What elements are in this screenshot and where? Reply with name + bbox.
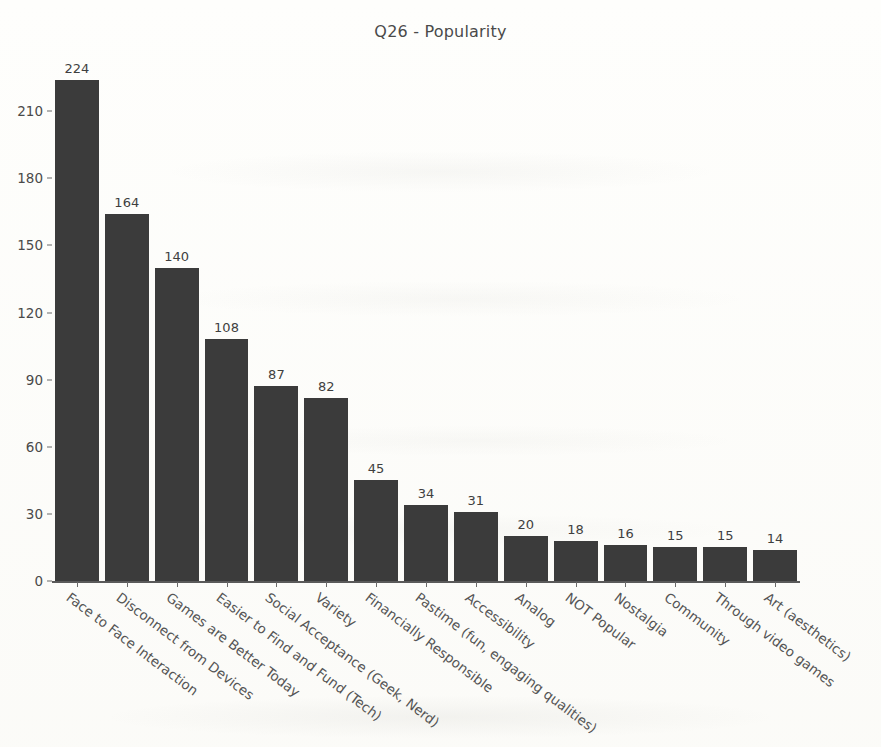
bar-value-label: 18 bbox=[567, 522, 584, 537]
bar-value-label: 16 bbox=[617, 526, 634, 541]
bar-value-label: 31 bbox=[468, 493, 485, 508]
bar bbox=[254, 386, 298, 581]
bar bbox=[55, 80, 99, 581]
plot-area: 0306090120150180210 22416414010887824534… bbox=[52, 62, 800, 583]
bar-value-label: 82 bbox=[318, 379, 335, 394]
bar-slot: 140 bbox=[155, 62, 199, 581]
bar-slot: 31 bbox=[454, 62, 498, 581]
y-axis-tick-label: 30 bbox=[26, 506, 43, 522]
chart-figure: Q26 - Popularity 0306090120150180210 224… bbox=[0, 0, 881, 747]
bar bbox=[753, 550, 797, 581]
bar-slot: 164 bbox=[105, 62, 149, 581]
y-axis-tick-label: 150 bbox=[17, 237, 43, 253]
bar-slot: 14 bbox=[753, 62, 797, 581]
bar-slot: 34 bbox=[404, 62, 448, 581]
chart-title: Q26 - Popularity bbox=[0, 22, 881, 41]
y-axis-tick-label: 210 bbox=[17, 103, 43, 119]
bar bbox=[653, 547, 697, 581]
bar-value-label: 164 bbox=[114, 195, 139, 210]
x-axis-category-labels: Face to Face InteractionDisconnect from … bbox=[52, 585, 852, 745]
bar-slot: 108 bbox=[205, 62, 249, 581]
bar-value-label: 224 bbox=[65, 61, 90, 76]
bar-value-label: 15 bbox=[717, 528, 734, 543]
bar bbox=[454, 512, 498, 581]
bar-slot: 45 bbox=[354, 62, 398, 581]
bar-slot: 18 bbox=[554, 62, 598, 581]
bar bbox=[205, 339, 249, 581]
bar-slot: 16 bbox=[604, 62, 648, 581]
bar-value-label: 14 bbox=[767, 531, 784, 546]
bar-value-label: 108 bbox=[214, 320, 239, 335]
bar bbox=[354, 480, 398, 581]
bar bbox=[504, 536, 548, 581]
bar-slot: 87 bbox=[254, 62, 298, 581]
y-axis-tick-label: 90 bbox=[26, 372, 43, 388]
bar bbox=[155, 268, 199, 581]
bar-value-label: 34 bbox=[418, 486, 435, 501]
bar-value-label: 20 bbox=[517, 517, 534, 532]
x-axis-category-label: Pastime (fun, engaging qualities) bbox=[412, 589, 600, 736]
bar bbox=[554, 541, 598, 581]
bar-slot: 20 bbox=[504, 62, 548, 581]
bar bbox=[304, 398, 348, 581]
bar-value-label: 15 bbox=[667, 528, 684, 543]
bar bbox=[105, 214, 149, 581]
bar bbox=[604, 545, 648, 581]
bar-slot: 15 bbox=[703, 62, 747, 581]
bar-value-label: 45 bbox=[368, 461, 385, 476]
y-axis-tick-label: 180 bbox=[17, 170, 43, 186]
bar-slot: 224 bbox=[55, 62, 99, 581]
bar-series: 2241641401088782453431201816151514 bbox=[52, 62, 800, 581]
y-axis-tick-label: 0 bbox=[34, 573, 43, 589]
bar-value-label: 87 bbox=[268, 367, 285, 382]
y-axis-tick-label: 120 bbox=[17, 305, 43, 321]
bar-slot: 15 bbox=[653, 62, 697, 581]
bar-slot: 82 bbox=[304, 62, 348, 581]
x-axis-category-label: Art (aesthetics) bbox=[761, 589, 854, 664]
bar-value-label: 140 bbox=[164, 249, 189, 264]
bar bbox=[404, 505, 448, 581]
bar bbox=[703, 547, 747, 581]
y-axis-tick-label: 60 bbox=[26, 439, 43, 455]
